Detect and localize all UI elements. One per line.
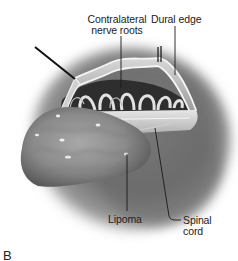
label-lipoma: Lipoma xyxy=(108,214,142,225)
label-line-2: nerve roots xyxy=(86,25,148,36)
label-contralateral-nerve-roots: Contralateral nerve roots xyxy=(86,14,148,36)
label-spinal-cord: Spinal cord xyxy=(183,215,212,237)
label-line-2: cord xyxy=(183,226,212,237)
panel-letter: B xyxy=(3,248,12,261)
retraction-instrument xyxy=(35,47,75,79)
label-dural-edge: Dural edge xyxy=(151,14,201,25)
